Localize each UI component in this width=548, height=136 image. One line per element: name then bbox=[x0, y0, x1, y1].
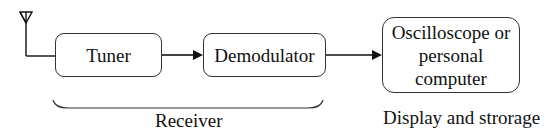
receiver-brace bbox=[53, 100, 323, 108]
output-block: Oscilloscope or personal computer bbox=[382, 17, 520, 93]
tuner-label: Tuner bbox=[86, 44, 131, 67]
output-label-line2: personal computer bbox=[383, 44, 519, 90]
tuner-block: Tuner bbox=[55, 33, 162, 77]
antenna-icon bbox=[20, 12, 55, 56]
receiver-label: Receiver bbox=[155, 110, 223, 132]
output-label-line1: Oscilloscope or bbox=[392, 21, 511, 44]
arrow-tuner-to-demodulator bbox=[162, 50, 203, 60]
display-storage-label: Display and strorage bbox=[383, 107, 540, 129]
arrow-demodulator-to-output bbox=[326, 50, 382, 60]
demodulator-label: Demodulator bbox=[214, 44, 314, 67]
demodulator-block: Demodulator bbox=[203, 33, 326, 77]
